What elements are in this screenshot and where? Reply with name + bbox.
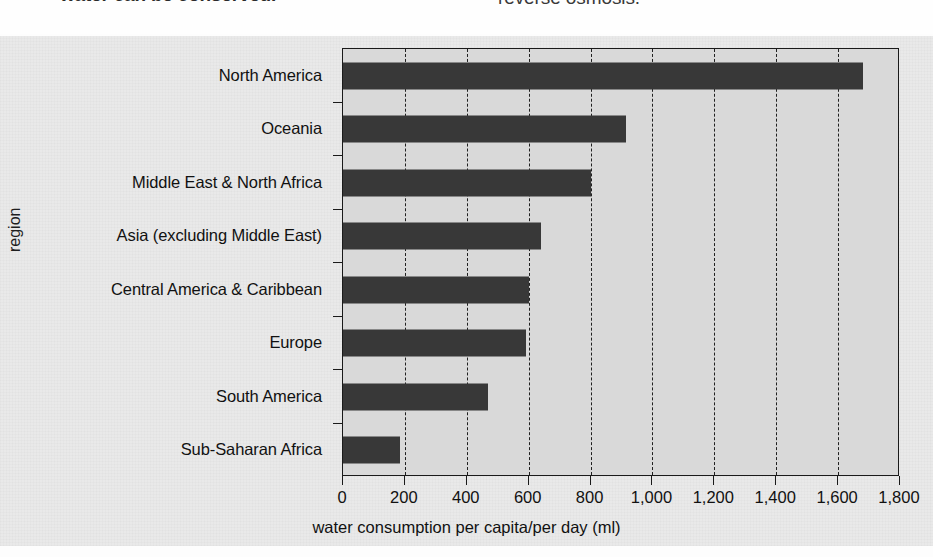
bar: [343, 383, 488, 410]
category-label: Sub-Saharan Africa: [181, 440, 322, 459]
category-label-column: North AmericaOceaniaMiddle East & North …: [0, 48, 322, 476]
bar: [343, 276, 529, 303]
bar: [343, 330, 526, 357]
x-axis-tick-label: 1,600: [816, 488, 857, 507]
y-axis-tick: [333, 369, 342, 370]
x-axis-title: water consumption per capita/per day (ml…: [0, 518, 933, 537]
gridline: [529, 49, 530, 475]
x-axis-tick-label: 0: [337, 488, 346, 507]
y-axis-tick: [333, 155, 342, 156]
plot-area: [342, 48, 899, 476]
x-axis-tick: [775, 476, 776, 485]
y-axis-tick: [333, 102, 342, 103]
gridline: [714, 49, 715, 475]
x-axis-tick: [651, 476, 652, 485]
x-axis-tick: [528, 476, 529, 485]
x-axis-tick-label: 1,000: [631, 488, 672, 507]
bar: [343, 169, 591, 196]
bar: [343, 116, 626, 143]
category-label: South America: [216, 386, 322, 405]
x-axis-tick: [590, 476, 591, 485]
x-axis-tick-label: 400: [452, 488, 480, 507]
gridline: [652, 49, 653, 475]
category-label: Asia (excluding Middle East): [117, 226, 322, 245]
x-axis-tick-label: 1,400: [755, 488, 796, 507]
x-axis-tick-label: 200: [390, 488, 418, 507]
category-label: Europe: [269, 333, 322, 352]
y-axis-tick: [333, 262, 342, 263]
bar-chart-figure: region North AmericaOceaniaMiddle East &…: [0, 36, 933, 546]
category-label: Central America & Caribbean: [111, 279, 322, 298]
page-top-text: water can be conserved. reverse osmosis.: [0, 0, 933, 34]
y-axis-tick: [333, 209, 342, 210]
y-axis-tick: [333, 423, 342, 424]
page-bottom-strip: [0, 546, 933, 557]
x-axis-tick: [466, 476, 467, 485]
gridline: [776, 49, 777, 475]
x-axis-tick: [837, 476, 838, 485]
top-text-right-fragment: reverse osmosis.: [498, 0, 640, 9]
category-label: North America: [219, 65, 322, 84]
category-label: Middle East & North Africa: [132, 172, 322, 191]
gridline: [591, 49, 592, 475]
x-axis-tick: [899, 476, 900, 485]
bar: [343, 437, 400, 464]
x-axis-tick: [404, 476, 405, 485]
x-axis-tick-label: 800: [576, 488, 604, 507]
x-axis-tick-label: 1,200: [693, 488, 734, 507]
category-label: Oceania: [261, 119, 322, 138]
gridline: [405, 49, 406, 475]
x-axis-tick: [713, 476, 714, 485]
x-axis-tick-label: 1,800: [878, 488, 919, 507]
gridline: [467, 49, 468, 475]
bar: [343, 223, 541, 250]
y-axis-tick: [333, 316, 342, 317]
top-text-left-fragment: water can be conserved.: [60, 0, 276, 6]
x-axis-tick: [342, 476, 343, 485]
x-axis-tick-label: 600: [514, 488, 542, 507]
bar: [343, 62, 863, 89]
gridline: [838, 49, 839, 475]
